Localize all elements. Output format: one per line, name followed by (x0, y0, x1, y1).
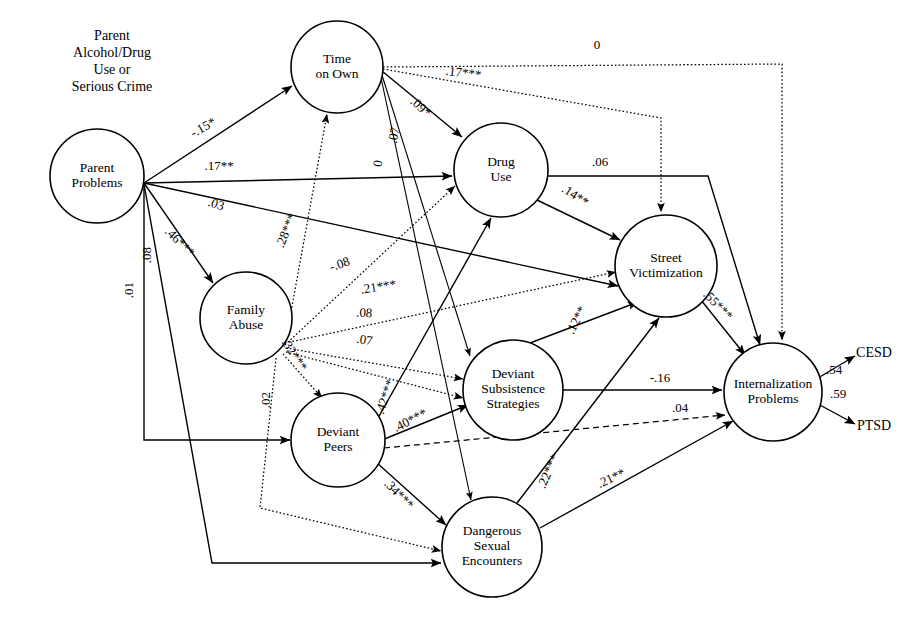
node-parent_problems[interactable]: ParentProblems (50, 129, 144, 223)
node-deviant_peers[interactable]: DeviantPeers (291, 393, 385, 487)
edge-coefficient: .21** (595, 465, 628, 491)
edge-coefficient: .40*** (391, 405, 430, 435)
edge-coefficient: -.16 (650, 370, 671, 385)
edge-label-pp-to-dse: .01 (121, 282, 136, 298)
edge-label-pp-to-tow: -.15* (187, 114, 218, 140)
edge-pp-to-du (144, 176, 452, 183)
node-label-line: Parent (80, 160, 115, 175)
node-label-line: Sexual (474, 538, 511, 553)
edge-label-fa-to-tow: .28*** (272, 211, 299, 250)
edge-dse-to-int (540, 421, 733, 528)
edge-coefficient: .12** (563, 304, 590, 337)
edge-label-du-to-sv: .14** (559, 181, 592, 210)
edge-label-tow-to-du: .09* (408, 93, 435, 119)
external-label-cesd: CESD (856, 345, 892, 360)
edge-label-tow-to-int: 0 (594, 37, 601, 52)
edge-dp-to-int (384, 415, 725, 448)
edge-label-tow-to-sv: .17*** (445, 63, 482, 82)
external-label-parent-source: ParentAlcohol/DrugUse orSerious Crime (72, 28, 153, 94)
edge-coefficient: .28*** (272, 211, 299, 250)
node-time_on_own[interactable]: Timeon Own (291, 21, 383, 113)
node-label-line: Internalization (734, 376, 813, 391)
edge-coefficient: .02 (258, 392, 273, 408)
edge-coefficient: .21*** (359, 276, 397, 296)
node-label-line: Family (227, 302, 266, 317)
edge-coefficient: .04 (672, 400, 689, 415)
path-diagram-svg: ParentProblemsTimeon OwnDrugUseFamilyAbu… (0, 0, 910, 644)
edge-label-pp-to-fa: .46*** (162, 224, 198, 260)
edge-coefficient: .17** (204, 158, 233, 173)
node-label-line: Street (650, 250, 682, 265)
node-label-line: Deviant (492, 366, 535, 381)
node-label-line: Victimization (629, 265, 703, 280)
edge-dp-to-dse (376, 462, 446, 525)
edge-coefficient: .01 (121, 282, 136, 298)
edge-coefficient: .08 (139, 247, 154, 263)
edge-label-fa-to-du: -.08 (327, 253, 351, 274)
node-label-line: Problems (747, 391, 798, 406)
edge-coefficient: .07 (356, 331, 375, 348)
edge-coefficient: -.15* (187, 114, 218, 140)
edge-coefficient: 0 (370, 159, 386, 168)
edge-label-dse-to-sv: .22*** (534, 452, 562, 491)
edge-label-dss-to-int: -.16 (650, 370, 671, 385)
edge-label-fa-to-dss2: .07 (356, 331, 375, 348)
external-label-line: Parent (94, 28, 130, 43)
edge-coefficient: .07 (385, 125, 403, 144)
node-label-line: Strategies (486, 396, 539, 411)
edge-coefficient: .59 (830, 386, 846, 401)
node-dangerous_sexual[interactable]: DangerousSexualEncounters (442, 497, 542, 597)
edge-fa-to-du (285, 186, 455, 345)
external-label-line: PTSD (857, 418, 891, 433)
external-label-line: Alcohol/Drug (73, 45, 151, 60)
node-street_victimization[interactable]: StreetVictimization (615, 215, 717, 317)
edge-coefficient: .08 (356, 305, 373, 321)
edge-coefficient: 0 (594, 37, 601, 52)
edge-coefficient: -.08 (327, 253, 351, 274)
node-label-line: Abuse (229, 317, 264, 332)
node-family_abuse[interactable]: FamilyAbuse (200, 272, 292, 364)
edge-label-pp-to-du: .17** (204, 158, 233, 173)
edge-label-fa-to-dss: .08 (356, 305, 373, 321)
node-internalization[interactable]: InternalizationProblems (724, 343, 822, 441)
node-deviant_subsistence[interactable]: DeviantSubsistenceStrategies (463, 340, 563, 440)
edge-label-int-to-cesd: .54 (826, 362, 843, 377)
edge-label-pp-to-dp: .08 (139, 247, 154, 263)
node-label-line: Drug (487, 154, 515, 169)
edge-label-int-to-ptsd: .59 (830, 386, 846, 401)
node-label-line: Deviant (317, 424, 360, 439)
edge-fa-to-dss2 (286, 352, 463, 398)
edge-int-to-ptsd (818, 404, 855, 424)
edge-label-pp-to-sv: .03 (206, 194, 226, 213)
edge-coefficient: .09* (408, 93, 435, 119)
node-label-line: Encounters (462, 553, 523, 568)
edge-label-fa-to-sv: .21*** (359, 276, 397, 296)
node-label-line: Use (491, 169, 512, 184)
edge-fa-to-dss (286, 348, 463, 379)
edge-coefficient: .06 (592, 154, 609, 169)
edge-label-dss-to-sv: .12** (563, 304, 590, 337)
node-label-line: Dangerous (463, 523, 521, 538)
edge-label-tow-to-dss: .07 (385, 125, 403, 144)
edge-coefficient: .46*** (162, 224, 198, 260)
node-label-line: on Own (315, 66, 358, 81)
edge-label-du-to-int: .06 (592, 154, 609, 169)
path-diagram-canvas: ParentProblemsTimeon OwnDrugUseFamilyAbu… (0, 0, 910, 644)
external-label-ptsd: PTSD (857, 418, 891, 433)
edge-coefficient: .17*** (445, 63, 482, 82)
edge-coefficient: .42*** (372, 377, 398, 416)
edge-label-dse-to-int: .21** (595, 465, 628, 491)
edge-coefficient: .54 (826, 362, 843, 377)
node-label-line: Time (323, 51, 351, 66)
node-label-line: Peers (323, 439, 352, 454)
node-drug_use[interactable]: DrugUse (454, 123, 548, 217)
edge-coefficient: .14** (559, 181, 592, 210)
edge-coefficient: .22*** (534, 452, 562, 491)
edge-label-dp-to-du: .42*** (372, 377, 398, 416)
edge-label-tow-to-dse: 0 (370, 159, 386, 168)
edge-coefficient: .03 (206, 194, 226, 213)
edge-label-fa-to-dse: .02 (258, 392, 273, 408)
external-label-line: Use or (94, 62, 131, 77)
external-label-line: Serious Crime (72, 79, 153, 94)
edge-label-dp-to-int: .04 (672, 400, 689, 415)
